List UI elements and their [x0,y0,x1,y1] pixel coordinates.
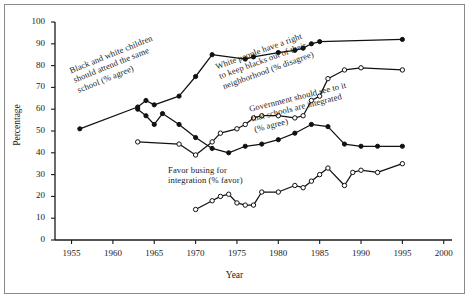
x-tick-label: 1960 [93,248,133,258]
annotation-busing: Favor busing for integration (% favor) [168,165,243,186]
data-point [375,170,379,174]
data-point [152,122,156,126]
data-point [160,111,164,115]
y-tick-label: 0 [19,234,45,244]
data-point [276,138,280,142]
data-point [193,207,197,211]
y-tick-label: 30 [19,169,45,179]
data-point [226,192,230,196]
data-point [210,140,214,144]
data-point [276,190,280,194]
data-point [177,142,181,146]
data-point [359,168,363,172]
data-point [177,94,181,98]
data-point [326,76,330,80]
data-point [375,144,379,148]
data-point [243,203,247,207]
data-point [293,131,297,135]
data-point [301,185,305,189]
y-tick-label: 10 [19,212,45,222]
data-point [309,179,313,183]
data-point [218,194,222,198]
data-point [251,203,255,207]
y-tick-label: 70 [19,81,45,91]
data-point [210,53,214,57]
data-point [309,122,313,126]
data-point [342,68,346,72]
data-point [177,122,181,126]
x-tick-label: 1965 [134,248,174,258]
y-tick-label: 20 [19,190,45,200]
x-tick-label: 1980 [258,248,298,258]
data-point [326,125,330,129]
data-point [144,98,148,102]
y-tick-label: 90 [19,38,45,48]
x-tick-label: 2000 [424,248,464,258]
data-point [193,153,197,157]
x-tick-label: 1975 [217,248,257,258]
data-point [243,122,247,126]
y-tick-label: 60 [19,103,45,113]
data-point [210,199,214,203]
x-tick-label: 1990 [341,248,381,258]
y-tick-label: 40 [19,147,45,157]
data-point [194,135,198,139]
data-point [243,144,247,148]
x-tick-label: 1970 [176,248,216,258]
x-tick-label: 1955 [52,248,92,258]
data-point [351,170,355,174]
y-tick-label: 80 [19,60,45,70]
data-point [260,142,264,146]
data-point [359,66,363,70]
data-point [136,140,140,144]
figure-container: Percentage Year 010203040506070809010019… [0,0,469,298]
data-point [235,127,239,131]
data-point [318,40,322,44]
data-point [136,107,140,111]
data-point [144,114,148,118]
data-point [359,144,363,148]
y-tick-label: 50 [19,125,45,135]
data-point [400,37,404,41]
data-point [293,183,297,187]
data-point [400,162,404,166]
x-tick-label: 1995 [382,248,422,258]
data-point [342,142,346,146]
data-point [317,172,321,176]
data-point [326,166,330,170]
data-point [400,144,404,148]
data-point [235,201,239,205]
data-point [194,74,198,78]
data-point [152,103,156,107]
data-point [78,127,82,131]
x-tick-label: 1985 [300,248,340,258]
data-point [342,183,346,187]
data-point [218,131,222,135]
data-point [400,68,404,72]
data-point [227,151,231,155]
data-point [260,190,264,194]
y-tick-label: 100 [19,16,45,26]
data-point [210,146,214,150]
